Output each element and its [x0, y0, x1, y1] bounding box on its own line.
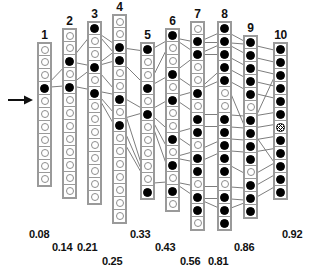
cell-5-9[interactable] [141, 147, 154, 160]
cell-4-15[interactable] [113, 197, 126, 210]
cell-on-5-6[interactable] [141, 108, 154, 121]
cell-1-7[interactable] [38, 121, 51, 134]
cell-on-7-2[interactable] [191, 35, 204, 48]
cell-3-8[interactable] [88, 113, 101, 126]
cell-on-3-1[interactable] [88, 22, 101, 35]
cell-on-8-5[interactable] [218, 74, 231, 87]
cell-2-7[interactable] [63, 107, 76, 120]
cell-2-4[interactable] [63, 68, 76, 81]
cell-2-1[interactable] [63, 29, 76, 42]
cell-on-8-15[interactable] [218, 204, 231, 217]
cell-2-9[interactable] [63, 133, 76, 146]
cell-3-2[interactable] [88, 35, 101, 48]
cell-on-7-12[interactable] [191, 165, 204, 178]
cell-4-16[interactable] [113, 210, 126, 223]
cell-7-1[interactable] [191, 22, 204, 35]
cell-6-14[interactable] [166, 198, 179, 211]
cell-4-13[interactable] [113, 171, 126, 184]
cell-on-10-11[interactable] [274, 173, 287, 186]
cell-4-6[interactable] [113, 80, 126, 93]
cell-3-11[interactable] [88, 152, 101, 165]
cell-on-8-4[interactable] [218, 61, 231, 74]
cell-7-7[interactable] [191, 100, 204, 113]
cell-7-13[interactable] [191, 178, 204, 191]
column-4[interactable]: 4 [112, 2, 127, 224]
cell-on-10-8[interactable] [274, 134, 287, 147]
cell-marked-10-7[interactable] [274, 121, 287, 134]
cell-8-7[interactable] [218, 100, 231, 113]
cell-8-13[interactable] [218, 178, 231, 191]
cell-4-14[interactable] [113, 184, 126, 197]
cell-on-8-1[interactable] [218, 22, 231, 35]
cell-on-9-9[interactable] [244, 140, 257, 153]
cell-6-3[interactable] [166, 55, 179, 68]
cell-6-7[interactable] [166, 107, 179, 120]
cell-on-9-1[interactable] [244, 36, 257, 49]
cell-4-5[interactable] [113, 67, 126, 80]
cell-on-2-5[interactable] [63, 81, 76, 94]
cell-3-5[interactable] [88, 74, 101, 87]
cell-2-6[interactable] [63, 94, 76, 107]
cell-5-5[interactable] [141, 95, 154, 108]
cell-on-10-3[interactable] [274, 69, 287, 82]
cell-on-9-10[interactable] [244, 153, 257, 166]
cell-on-4-7[interactable] [113, 93, 126, 106]
cell-on-8-9[interactable] [218, 126, 231, 139]
cell-1-11[interactable] [38, 173, 51, 186]
cell-on-8-11[interactable] [218, 152, 231, 165]
cell-on-5-4[interactable] [141, 82, 154, 95]
cell-on-6-11[interactable] [166, 159, 179, 172]
cell-5-8[interactable] [141, 134, 154, 147]
cell-on-6-13[interactable] [166, 185, 179, 198]
cell-1-10[interactable] [38, 160, 51, 173]
column-5[interactable]: 5 [140, 30, 155, 200]
cell-on-4-9[interactable] [113, 119, 126, 132]
cell-1-1[interactable] [38, 43, 51, 56]
cell-on-4-3[interactable] [113, 41, 126, 54]
cell-4-12[interactable] [113, 158, 126, 171]
cell-on-1-4[interactable] [38, 82, 51, 95]
cell-4-10[interactable] [113, 132, 126, 145]
cell-7-10[interactable] [191, 139, 204, 152]
cell-3-9[interactable] [88, 126, 101, 139]
cell-on-10-2[interactable] [274, 56, 287, 69]
cell-on-9-3[interactable] [244, 62, 257, 75]
cell-5-3[interactable] [141, 69, 154, 82]
cell-3-12[interactable] [88, 165, 101, 178]
cell-6-2[interactable] [166, 42, 179, 55]
cell-2-2[interactable] [63, 42, 76, 55]
cell-on-10-9[interactable] [274, 147, 287, 160]
column-10[interactable]: 10 [273, 30, 288, 200]
cell-on-10-6[interactable] [274, 108, 287, 121]
cell-on-6-4[interactable] [166, 68, 179, 81]
cell-on-7-8[interactable] [191, 113, 204, 126]
cell-on-10-5[interactable] [274, 95, 287, 108]
cell-on-8-2[interactable] [218, 35, 231, 48]
cell-4-1[interactable] [113, 15, 126, 28]
cell-6-5[interactable] [166, 81, 179, 94]
cell-on-8-10[interactable] [218, 139, 231, 152]
column-1[interactable]: 1 [37, 30, 52, 187]
cell-on-7-11[interactable] [191, 152, 204, 165]
cell-5-7[interactable] [141, 121, 154, 134]
cell-on-9-4[interactable] [244, 75, 257, 88]
cell-7-5[interactable] [191, 74, 204, 87]
cell-on-5-12[interactable] [141, 186, 154, 199]
cell-1-9[interactable] [38, 147, 51, 160]
cell-on-7-14[interactable] [191, 191, 204, 204]
cell-on-6-9[interactable] [166, 133, 179, 146]
column-2[interactable]: 2 [62, 16, 77, 199]
cell-1-3[interactable] [38, 69, 51, 82]
cell-on-10-12[interactable] [274, 186, 287, 199]
cell-2-11[interactable] [63, 159, 76, 172]
cell-on-7-15[interactable] [191, 204, 204, 217]
cell-on-10-10[interactable] [274, 160, 287, 173]
cell-on-8-8[interactable] [218, 113, 231, 126]
cell-on-8-14[interactable] [218, 191, 231, 204]
cell-on-6-1[interactable] [166, 29, 179, 42]
cell-2-8[interactable] [63, 120, 76, 133]
cell-4-8[interactable] [113, 106, 126, 119]
cell-on-4-4[interactable] [113, 54, 126, 67]
cell-on-8-12[interactable] [218, 165, 231, 178]
cell-2-12[interactable] [63, 172, 76, 185]
